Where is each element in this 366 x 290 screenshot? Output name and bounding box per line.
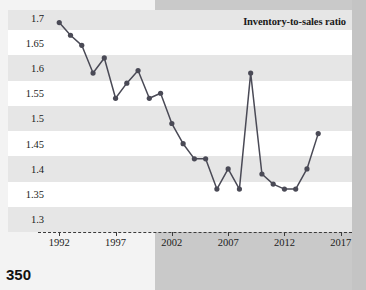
data-point (203, 156, 208, 161)
y-axis-tick-label: 1.65 (26, 37, 44, 48)
x-axis-tick-label: 2002 (161, 237, 182, 248)
y-axis-tick-label: 1.5 (31, 113, 44, 124)
series-polyline (59, 23, 318, 190)
data-point (158, 91, 163, 96)
data-point (102, 55, 107, 60)
chart-figure: Inventory-to-sales ratio 1.71.651.61.551… (8, 10, 352, 255)
data-point (259, 171, 264, 176)
y-axis-tick-label: 1.4 (31, 163, 44, 174)
data-point (124, 81, 129, 86)
y-axis-tick-label: 1.7 (31, 12, 44, 23)
series-markers (57, 20, 321, 192)
y-axis-labels: 1.71.651.61.551.51.451.41.351.3 (8, 10, 48, 232)
x-axis-tick-mark (59, 232, 60, 236)
data-point (90, 70, 95, 75)
x-axis-tick-mark (228, 232, 229, 236)
data-point (181, 141, 186, 146)
plot-area (48, 10, 352, 232)
x-axis-tick-label: 2007 (218, 237, 239, 248)
x-axis-tick-label: 2017 (330, 237, 351, 248)
data-point (169, 121, 174, 126)
data-point (79, 43, 84, 48)
page-edge-shadow (352, 0, 366, 290)
x-axis-tick-label: 1992 (49, 237, 70, 248)
data-point (57, 20, 62, 25)
data-point (192, 156, 197, 161)
data-point (214, 187, 219, 192)
x-axis-tick-mark (341, 232, 342, 236)
x-axis-tick-mark (284, 232, 285, 236)
data-point (237, 187, 242, 192)
x-axis-tick-mark (116, 232, 117, 236)
y-axis-tick-label: 1.55 (26, 88, 44, 99)
y-axis-tick-label: 1.45 (26, 138, 44, 149)
data-point (135, 68, 140, 73)
data-point (147, 96, 152, 101)
data-point (316, 131, 321, 136)
x-axis-tick-label: 1997 (105, 237, 126, 248)
data-point (304, 166, 309, 171)
data-point (68, 33, 73, 38)
data-point (226, 166, 231, 171)
x-axis-tick-label: 2012 (274, 237, 295, 248)
data-point (113, 96, 118, 101)
y-axis-tick-label: 1.35 (26, 189, 44, 200)
data-point (293, 187, 298, 192)
x-axis-ticks: 199219972002200720122017 (8, 232, 352, 256)
y-axis-tick-label: 1.3 (31, 214, 44, 225)
line-series (48, 10, 352, 232)
y-axis-tick-label: 1.6 (31, 63, 44, 74)
data-point (248, 70, 253, 75)
data-point (271, 181, 276, 186)
book-page: Inventory-to-sales ratio 1.71.651.61.551… (0, 0, 366, 290)
page-number: 350 (6, 266, 31, 283)
data-point (282, 187, 287, 192)
x-axis-tick-mark (172, 232, 173, 236)
